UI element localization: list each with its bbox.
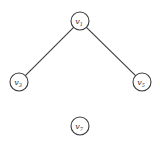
- node-v5: v5: [133, 73, 151, 91]
- node-v1: v1: [71, 12, 89, 30]
- node-v7: v7: [71, 117, 89, 135]
- edge-v1-v3: [25, 27, 73, 75]
- nodes: v1v3v5v7: [10, 12, 151, 135]
- edge-v1-v5: [86, 27, 135, 75]
- graph-diagram: v1v3v5v7: [0, 0, 160, 149]
- edges: [25, 27, 135, 75]
- node-v3: v3: [10, 73, 28, 91]
